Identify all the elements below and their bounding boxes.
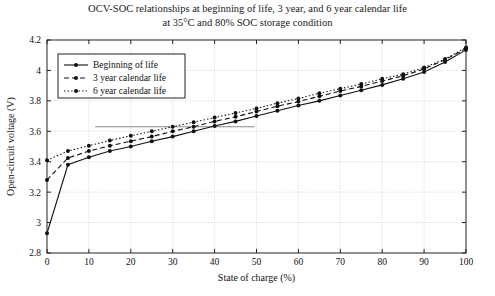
data-point-marker (192, 125, 196, 129)
data-point-marker (66, 149, 70, 153)
x-tick-label: 90 (419, 257, 429, 267)
legend-label: Beginning of life (93, 60, 158, 70)
data-point-marker (380, 83, 384, 87)
data-point-marker (338, 87, 342, 91)
data-point-marker (234, 115, 238, 119)
data-point-marker (359, 88, 363, 92)
x-tick-label: 70 (336, 257, 346, 267)
data-point-marker (108, 138, 112, 142)
data-point-marker (129, 139, 133, 143)
plot-area: 2.833.23.43.63.844.201020304050607080901… (0, 0, 495, 296)
x-tick-label: 80 (377, 257, 387, 267)
data-point-marker (317, 91, 321, 95)
data-point-marker (108, 144, 112, 148)
data-point-marker (66, 163, 70, 167)
data-point-marker (171, 125, 175, 129)
data-point-marker (150, 139, 154, 143)
data-point-marker (213, 119, 217, 123)
y-tick-label: 3.8 (29, 96, 41, 106)
data-point-marker (192, 129, 196, 133)
data-point-marker (255, 114, 259, 118)
x-tick-label: 0 (45, 257, 50, 267)
data-point-marker (213, 116, 217, 120)
chart-figure: OCV-SOC relationships at beginning of li… (0, 0, 495, 296)
data-point-marker (108, 149, 112, 153)
x-tick-label: 100 (459, 257, 474, 267)
data-point-marker (275, 101, 279, 105)
y-tick-label: 3.2 (29, 188, 41, 198)
x-axis-label: State of charge (%) (218, 272, 295, 284)
data-point-marker (359, 82, 363, 86)
data-point-marker (192, 120, 196, 124)
data-point-marker (338, 94, 342, 98)
data-point-marker (150, 129, 154, 133)
x-tick-label: 60 (294, 257, 304, 267)
legend-marker (74, 63, 78, 67)
y-tick-label: 3.6 (29, 127, 41, 137)
data-point-marker (45, 231, 49, 235)
data-point-marker (150, 135, 154, 139)
legend-label: 6 year calendar life (93, 86, 166, 96)
data-point-marker (464, 46, 468, 50)
x-tick-label: 30 (168, 257, 178, 267)
legend-marker (74, 76, 78, 80)
data-point-marker (234, 119, 238, 123)
data-point-marker (422, 65, 426, 69)
data-point-marker (443, 57, 447, 61)
data-point-marker (45, 158, 49, 162)
data-point-marker (87, 149, 91, 153)
y-tick-label: 4.2 (29, 35, 41, 45)
x-tick-label: 20 (126, 257, 136, 267)
data-point-marker (171, 135, 175, 139)
data-point-marker (171, 129, 175, 133)
data-point-marker (255, 106, 259, 110)
data-point-marker (380, 77, 384, 81)
data-point-marker (401, 72, 405, 76)
legend-label: 3 year calendar life (93, 73, 166, 83)
y-tick-label: 3 (36, 218, 41, 228)
data-point-marker (45, 178, 49, 182)
legend-marker (74, 89, 78, 93)
y-tick-label: 3.4 (29, 157, 41, 167)
data-point-marker (129, 134, 133, 138)
data-point-marker (129, 145, 133, 149)
data-point-marker (234, 111, 238, 115)
y-tick-label: 4 (36, 66, 41, 76)
data-point-marker (296, 97, 300, 101)
data-point-marker (275, 109, 279, 113)
data-point-marker (66, 156, 70, 160)
data-point-marker (296, 103, 300, 107)
data-point-marker (87, 155, 91, 159)
y-axis-label: Open-circuit voltage (V) (5, 97, 17, 196)
x-tick-label: 40 (210, 257, 220, 267)
x-tick-label: 10 (84, 257, 94, 267)
data-point-marker (87, 144, 91, 148)
x-tick-label: 50 (252, 257, 262, 267)
data-point-marker (317, 99, 321, 103)
data-point-marker (213, 124, 217, 128)
y-tick-label: 2.8 (29, 248, 41, 258)
